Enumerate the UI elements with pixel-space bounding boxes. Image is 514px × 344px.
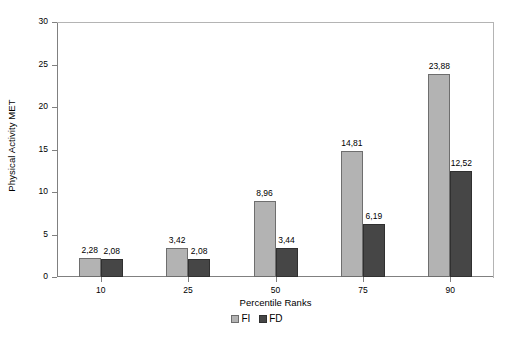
bar-fd-50 bbox=[276, 248, 298, 277]
y-axis-tick-label: 5 bbox=[43, 229, 48, 239]
bar-value-label-fd-10: 2,08 bbox=[92, 246, 132, 256]
bar-value-label-fi-25: 3,42 bbox=[157, 235, 197, 245]
bar-value-label-fd-50: 3,44 bbox=[267, 235, 307, 245]
y-axis-tick-mark bbox=[52, 277, 57, 278]
bar-group: 23,8812,52 bbox=[428, 22, 472, 277]
bar-value-label-fi-75: 14,81 bbox=[332, 138, 372, 148]
legend-label-fi: FI bbox=[241, 314, 250, 324]
bar-chart: Physical Activity MET 051015202530 2,282… bbox=[0, 0, 514, 344]
x-axis-tick-mark bbox=[450, 277, 451, 282]
y-axis-tick-label: 20 bbox=[39, 101, 48, 111]
legend-entry-fd: FD bbox=[259, 314, 282, 324]
bar-fd-75 bbox=[363, 224, 385, 277]
bar-value-label-fd-75: 6,19 bbox=[354, 211, 394, 221]
x-axis-tick-label: 50 bbox=[256, 285, 296, 295]
x-axis-tick-label: 90 bbox=[430, 285, 470, 295]
x-axis-title: Percentile Ranks bbox=[57, 297, 494, 308]
y-axis-title: Physical Activity MET bbox=[0, 0, 22, 290]
x-axis-tick-label: 25 bbox=[168, 285, 208, 295]
x-axis-tick-mark bbox=[188, 277, 189, 282]
y-axis-tick-label: 15 bbox=[39, 144, 48, 154]
y-axis-tick-label: 10 bbox=[39, 186, 48, 196]
x-axis-tick-label: 10 bbox=[81, 285, 121, 295]
bar-group: 2,282,08 bbox=[79, 22, 123, 277]
y-axis-title-text: Physical Activity MET bbox=[6, 99, 17, 191]
y-axis-tick-label: 0 bbox=[43, 271, 48, 281]
bar-fi-90 bbox=[428, 74, 450, 277]
bar-value-label-fi-50: 8,96 bbox=[245, 188, 285, 198]
bar-fd-90 bbox=[450, 171, 472, 277]
bar-group: 14,816,19 bbox=[341, 22, 385, 277]
x-axis-tick-mark bbox=[363, 277, 364, 282]
x-axis-tick-mark bbox=[101, 277, 102, 282]
bar-fd-10 bbox=[101, 259, 123, 277]
legend-swatch-fd-icon bbox=[259, 315, 267, 323]
bar-group: 8,963,44 bbox=[254, 22, 298, 277]
legend-entry-fi: FI bbox=[231, 314, 250, 324]
bar-value-label-fd-25: 2,08 bbox=[179, 246, 219, 256]
y-axis-tick-label: 30 bbox=[39, 16, 48, 26]
x-axis-tick-mark bbox=[276, 277, 277, 282]
legend-swatch-fi-icon bbox=[231, 315, 239, 323]
bar-fi-10 bbox=[79, 258, 101, 277]
chart-legend: FI FD bbox=[0, 314, 514, 324]
bar-value-label-fd-90: 12,52 bbox=[441, 158, 481, 168]
bar-fd-25 bbox=[188, 259, 210, 277]
bar-group: 3,422,08 bbox=[166, 22, 210, 277]
legend-label-fd: FD bbox=[269, 314, 282, 324]
y-axis-tick-label: 25 bbox=[39, 59, 48, 69]
bar-value-label-fi-90: 23,88 bbox=[419, 61, 459, 71]
bars-layer: 2,282,083,422,088,963,4414,816,1923,8812… bbox=[57, 22, 494, 277]
x-axis-tick-label: 75 bbox=[343, 285, 383, 295]
